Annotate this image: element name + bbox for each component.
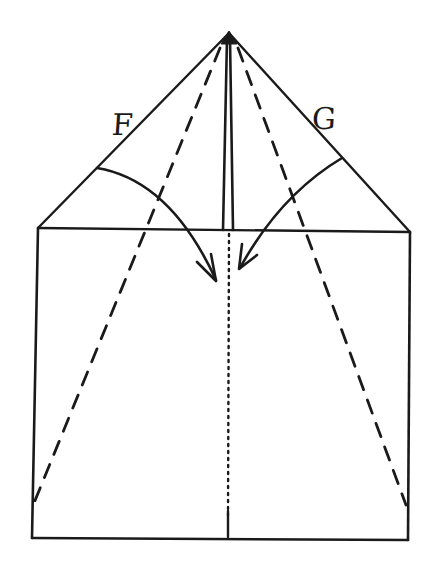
square-right-edge: [408, 232, 410, 540]
fold-arrow-f-head: [197, 254, 216, 281]
center-dotted-line: [228, 234, 229, 515]
square-left-edge: [32, 228, 38, 538]
center-crease-left: [223, 38, 227, 230]
fold-arrow-g: [240, 158, 342, 268]
triangle-left-edge: [38, 33, 229, 228]
square-bottom-edge: [32, 538, 408, 540]
origami-diagram: [0, 0, 437, 577]
flap-label-g: G: [311, 104, 337, 134]
flap-label-f: F: [111, 110, 134, 140]
center-crease-right: [230, 38, 233, 230]
